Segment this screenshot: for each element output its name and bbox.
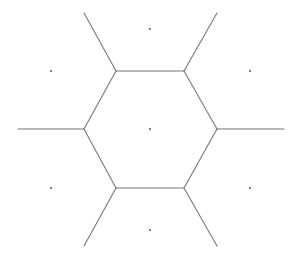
site-point-top-right (249, 70, 251, 72)
site-point-bottom-right (249, 187, 251, 189)
site-point-top (149, 28, 151, 30)
site-point-bottom-left (50, 187, 52, 189)
site-point-top-left (50, 70, 52, 72)
site-point-bottom (149, 229, 151, 231)
site-point-center (149, 128, 151, 130)
voronoi-diagram (0, 0, 296, 257)
